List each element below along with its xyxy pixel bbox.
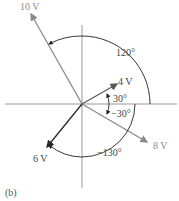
phasor-6v xyxy=(47,104,82,147)
phasor-10v xyxy=(31,14,82,104)
arc-30 xyxy=(107,94,109,104)
angle-label-minus-30: −30° xyxy=(111,108,131,119)
angle-label-30: 30° xyxy=(113,93,127,104)
label-6v: 6 V xyxy=(33,153,48,164)
phasor-diagram: 10 V 4 V 8 V 6 V 120° 30° −30° −130° (b) xyxy=(0,0,179,201)
angle-label-minus-130: −130° xyxy=(97,147,122,158)
figure-caption: (b) xyxy=(5,187,17,199)
angle-label-120: 120° xyxy=(116,47,135,58)
label-10v: 10 V xyxy=(20,1,40,12)
label-4v: 4 V xyxy=(118,76,133,87)
arc-minus-30 xyxy=(107,104,109,114)
phasor-4v xyxy=(82,84,117,104)
label-8v: 8 V xyxy=(153,140,168,151)
